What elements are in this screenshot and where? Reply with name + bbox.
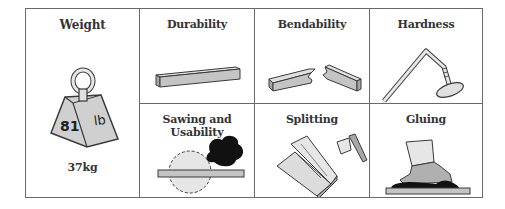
weight-unit: lb bbox=[93, 112, 107, 129]
split-log-axe-icon bbox=[273, 132, 368, 197]
cell-gluing: Gluing bbox=[370, 104, 482, 197]
plank-icon bbox=[154, 59, 244, 94]
circular-saw-icon bbox=[148, 134, 248, 199]
cell-sawing: Sawing and Usability bbox=[140, 104, 254, 197]
cell-label: Splitting bbox=[255, 113, 369, 126]
weight-icon: 81 lb bbox=[43, 67, 123, 157]
bent-nail-icon bbox=[380, 39, 470, 104]
wood-properties-grid: Weight 81 lb 37kg Durability Bendability bbox=[25, 8, 483, 198]
broken-plank-icon bbox=[265, 57, 365, 97]
cell-weight: Weight 81 lb 37kg bbox=[26, 9, 139, 197]
glued-shoe-icon bbox=[380, 132, 475, 197]
cell-durability: Durability bbox=[140, 9, 254, 103]
weight-value: 37kg bbox=[26, 161, 139, 174]
cell-splitting: Splitting bbox=[255, 104, 369, 197]
cell-bendability: Bendability bbox=[255, 9, 369, 103]
cell-label: Durability bbox=[140, 18, 254, 31]
cell-label: Weight bbox=[26, 18, 139, 32]
cell-label: Bendability bbox=[255, 18, 369, 31]
cell-label: Gluing bbox=[370, 113, 482, 126]
cell-hardness: Hardness bbox=[370, 9, 482, 103]
cell-label: Hardness bbox=[370, 18, 482, 31]
weight-number: 81 bbox=[60, 118, 79, 134]
